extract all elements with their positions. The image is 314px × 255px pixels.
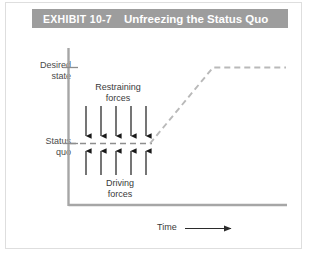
change-trajectory-line xyxy=(150,68,286,144)
restraining-force-arrows xyxy=(86,106,146,136)
chart-plot-area xyxy=(0,0,314,255)
exhibit-figure: EXHIBIT 10-7 Unfreezing the Status Quo D… xyxy=(0,0,314,255)
driving-force-arrows xyxy=(86,151,146,175)
